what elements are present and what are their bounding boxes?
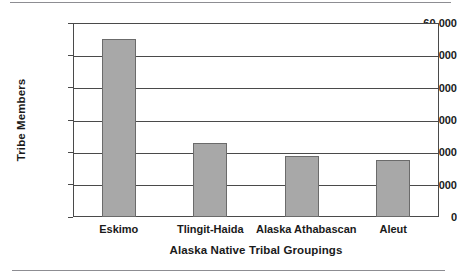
bar[interactable] xyxy=(376,160,410,217)
x-tick-label: Alaska Athabascan xyxy=(256,222,348,236)
bar-chart-figure: Tribe Members 010,00020,00030,00040,0005… xyxy=(0,0,457,279)
bar[interactable] xyxy=(285,156,319,217)
x-tick-label: Eskimo xyxy=(73,222,165,236)
x-tick-label: Tlingit-Haida xyxy=(165,222,257,236)
bar-slot xyxy=(256,23,348,217)
x-tick-label: Aleut xyxy=(348,222,440,236)
bar[interactable] xyxy=(102,39,136,217)
y-axis-title: Tribe Members xyxy=(12,23,30,217)
bar-slot xyxy=(165,23,257,217)
bar-slot xyxy=(348,23,440,217)
bar[interactable] xyxy=(193,143,227,217)
x-axis-title: Alaska Native Tribal Groupings xyxy=(73,244,439,256)
bar-series xyxy=(73,23,439,217)
bar-slot xyxy=(73,23,165,217)
